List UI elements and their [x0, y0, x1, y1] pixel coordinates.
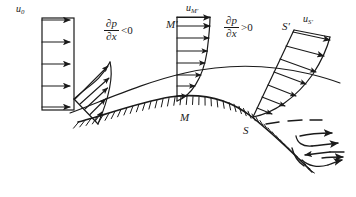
label-M-prime: M′ — [166, 19, 178, 30]
uniform-inlet-profile — [42, 18, 74, 110]
separation-profile-S — [253, 30, 330, 117]
annotation-favorable-pressure-gradient: ∂p ∂x <0 — [104, 18, 133, 42]
fraction-denominator: ∂x — [224, 28, 238, 40]
label-M: M — [180, 112, 189, 123]
recirculation-region — [292, 133, 344, 166]
fraction-numerator: ∂p — [104, 18, 119, 30]
label-S-prime: S′ — [282, 21, 290, 32]
dividing-streamline-dashed — [266, 120, 322, 124]
diagram-canvas — [0, 0, 356, 197]
label-u-M-prime: uM′ — [186, 3, 198, 14]
inequality-relation: >0 — [241, 21, 253, 33]
wall-hatching — [74, 97, 315, 173]
fraction-numerator: ∂p — [224, 15, 239, 27]
boundary-layer-separation-figure: u0 uM′ uS′ M′ S′ M S ∂p ∂x <0 ∂p ∂x >0 — [0, 0, 356, 197]
label-S: S — [243, 125, 249, 136]
label-u-S-prime: uS′ — [303, 14, 313, 25]
fraction-dp-dx: ∂p ∂x — [224, 15, 239, 39]
fraction-dp-dx: ∂p ∂x — [104, 18, 119, 42]
inequality-relation: <0 — [121, 24, 133, 36]
annotation-adverse-pressure-gradient: ∂p ∂x >0 — [224, 15, 253, 39]
label-u0: u0 — [16, 4, 24, 15]
wall-surface — [78, 96, 312, 172]
inflection-profile-M — [177, 17, 210, 101]
fraction-denominator: ∂x — [104, 31, 118, 43]
